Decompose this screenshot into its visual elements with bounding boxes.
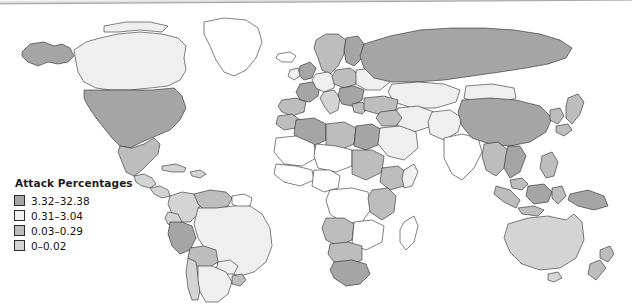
country-angola bbox=[322, 218, 354, 246]
country-egypt bbox=[354, 124, 382, 150]
country-malaysia bbox=[510, 178, 528, 190]
country-nigeria bbox=[312, 170, 340, 192]
country-cuba bbox=[162, 164, 186, 172]
country-niger-chad bbox=[314, 144, 352, 172]
country-madagascar bbox=[400, 216, 418, 250]
country-sudan bbox=[352, 150, 384, 180]
country-south-africa bbox=[330, 260, 370, 286]
country-philippines bbox=[540, 152, 558, 178]
country-new-zealand-north bbox=[600, 246, 614, 262]
country-alaska bbox=[22, 42, 74, 66]
country-canada bbox=[74, 32, 186, 90]
legend-item: 0–0.02 bbox=[14, 238, 146, 253]
legend-swatch-2 bbox=[14, 225, 25, 236]
country-korea bbox=[550, 108, 564, 124]
country-united-states bbox=[84, 88, 186, 148]
country-new-zealand-south bbox=[588, 260, 606, 280]
country-australia bbox=[504, 214, 584, 270]
world-map bbox=[0, 0, 632, 304]
country-japan-south bbox=[556, 124, 572, 136]
country-canada-arctic-isles bbox=[104, 22, 168, 32]
country-spain-portugal bbox=[278, 98, 306, 116]
legend-swatch-3 bbox=[14, 240, 25, 251]
country-borneo bbox=[526, 184, 552, 204]
country-uruguay bbox=[232, 274, 246, 286]
country-java bbox=[518, 206, 544, 216]
country-finland bbox=[344, 36, 364, 66]
country-west-africa-coast bbox=[274, 164, 314, 186]
legend-swatch-1 bbox=[14, 210, 25, 221]
world-map-figure: Attack Percentages 3.32–32.38 0.31–3.04 … bbox=[0, 0, 632, 304]
legend-swatch-0 bbox=[14, 195, 25, 206]
legend-label-0: 3.32–32.38 bbox=[31, 195, 90, 207]
legend-item: 3.32–32.38 bbox=[14, 193, 146, 208]
country-new-guinea bbox=[568, 190, 608, 210]
legend-label-2: 0.03–0.29 bbox=[31, 225, 83, 237]
country-ireland bbox=[288, 68, 300, 80]
legend-label-1: 0.31–3.04 bbox=[31, 210, 83, 222]
country-russia bbox=[360, 28, 572, 82]
country-sumatra bbox=[494, 186, 520, 208]
country-poland-baltics bbox=[332, 68, 358, 88]
country-sulawesi bbox=[552, 186, 566, 204]
country-somalia bbox=[402, 164, 418, 188]
legend-item: 0.31–3.04 bbox=[14, 208, 146, 223]
legend-title: Attack Percentages bbox=[15, 177, 146, 189]
country-united-kingdom bbox=[298, 62, 316, 80]
country-iraq-syria bbox=[376, 110, 402, 126]
map-legend: Attack Percentages 3.32–32.38 0.31–3.04 … bbox=[14, 177, 146, 253]
country-saudi-arabia bbox=[378, 126, 418, 160]
country-iceland bbox=[276, 52, 296, 62]
country-norway-sweden bbox=[314, 34, 346, 74]
country-tasmania bbox=[548, 272, 562, 282]
country-hispaniola bbox=[190, 170, 206, 178]
country-italy bbox=[320, 90, 340, 114]
country-panama-costarica bbox=[150, 186, 170, 198]
legend-item: 0.03–0.29 bbox=[14, 223, 146, 238]
country-vietnam-laos bbox=[504, 146, 526, 178]
country-myanmar-thailand bbox=[482, 142, 508, 176]
country-kazakhstan bbox=[388, 82, 460, 108]
legend-label-3: 0–0.02 bbox=[31, 240, 66, 252]
country-india bbox=[444, 134, 482, 180]
country-japan bbox=[566, 94, 584, 124]
country-kenya-tanzania bbox=[368, 188, 396, 220]
country-greenland bbox=[204, 18, 262, 76]
